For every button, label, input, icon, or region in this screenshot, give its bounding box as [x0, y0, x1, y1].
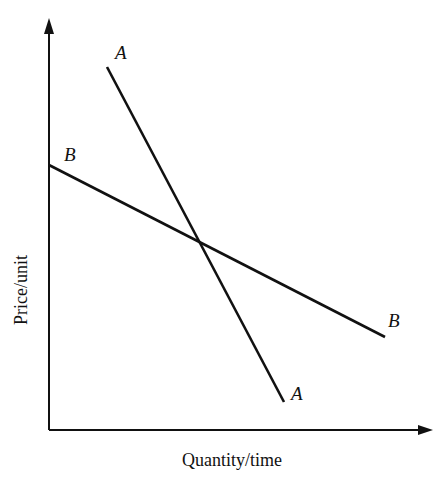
label-b-left: B — [64, 144, 76, 165]
y-axis-arrow-icon — [44, 18, 54, 34]
curve-b — [49, 165, 385, 337]
y-axis-label: Price/unit — [11, 255, 31, 325]
diagram: A A B B Quantity/time Price/unit — [0, 0, 437, 478]
x-axis-label: Quantity/time — [182, 450, 282, 470]
label-b-right: B — [388, 310, 400, 331]
curve-a — [107, 67, 284, 402]
label-a-top: A — [113, 42, 127, 63]
x-axis-arrow-icon — [418, 425, 433, 435]
label-a-bottom: A — [289, 383, 303, 404]
